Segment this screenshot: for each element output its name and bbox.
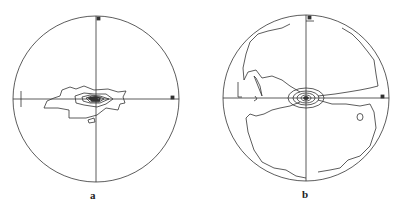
- panel-label-b: b: [302, 188, 308, 200]
- pole-figure-a: [13, 16, 179, 182]
- pole-figures: [0, 0, 403, 207]
- panel-label-a: a: [90, 189, 96, 201]
- pole-figure-b: [223, 15, 389, 181]
